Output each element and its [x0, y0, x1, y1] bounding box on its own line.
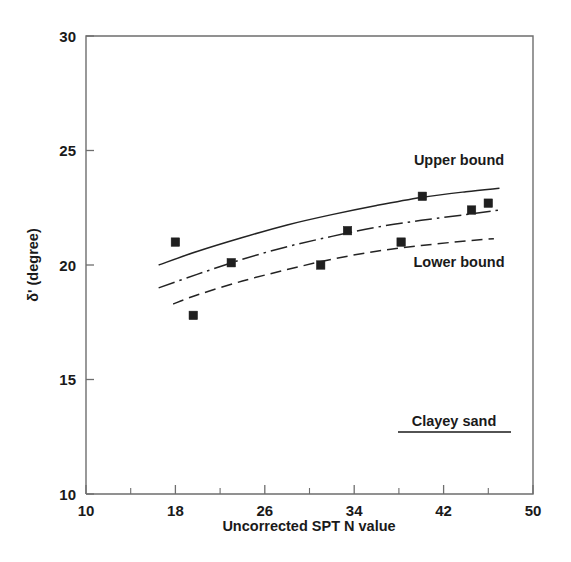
annotation-clayey-sand: Clayey sand	[412, 413, 497, 429]
y-axis-label: δ' (degree)	[25, 228, 41, 302]
y-axis-ticklabels: 1015202530	[59, 28, 76, 503]
y-tick-label: 20	[59, 257, 76, 274]
y-tick-label: 10	[59, 486, 76, 503]
chart-figure: 1015202530 101826344250 Uncorrected SPT …	[0, 0, 571, 562]
y-axis-ticks	[86, 36, 94, 494]
x-axis-label: Uncorrected SPT N value	[222, 518, 395, 534]
data-point-marker	[397, 238, 406, 247]
annotation-clayey-sand-group: Clayey sand	[398, 413, 511, 432]
annotation-lower-bound: Lower bound	[413, 254, 504, 270]
curve-mid-bound	[159, 210, 500, 288]
data-point-marker	[484, 199, 493, 208]
x-tick-label: 50	[525, 502, 542, 519]
y-tick-label: 30	[59, 28, 76, 45]
x-tick-label: 10	[78, 502, 95, 519]
data-point-marker	[418, 192, 427, 201]
data-point-marker	[343, 226, 352, 235]
x-axis-ticklabels: 101826344250	[78, 502, 542, 519]
y-tick-label: 15	[59, 371, 76, 388]
x-tick-label: 42	[435, 502, 452, 519]
annotation-upper-bound: Upper bound	[414, 152, 504, 168]
y-tick-label: 25	[59, 142, 76, 159]
data-point-marker	[316, 261, 325, 270]
x-tick-label: 34	[346, 502, 363, 519]
x-tick-label: 26	[256, 502, 273, 519]
data-point-marker	[171, 238, 180, 247]
data-point-marker	[467, 206, 476, 215]
data-point-marker	[189, 311, 198, 320]
bound-curves	[159, 188, 500, 304]
curve-lower-bound	[173, 239, 494, 304]
data-point-marker	[227, 258, 236, 267]
scatter-plot-svg: 1015202530 101826344250 Uncorrected SPT …	[0, 0, 571, 562]
x-tick-label: 18	[167, 502, 184, 519]
x-axis-ticks	[86, 485, 533, 494]
